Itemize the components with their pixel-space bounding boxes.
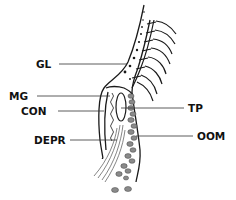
outer-outline (99, 5, 150, 182)
muscle-ladder (132, 20, 156, 88)
label-tp: TP (188, 103, 203, 114)
label-depr: DEPR (34, 135, 66, 146)
tarsal-plate (116, 93, 126, 121)
label-mg: MG (9, 91, 28, 102)
eyelid-diagram (0, 0, 236, 200)
label-oom: OOM (197, 131, 225, 142)
meibomian-gland (111, 93, 114, 141)
label-con: CON (21, 106, 46, 117)
orbicularis-bundles (112, 94, 138, 193)
leader-lines (37, 64, 193, 140)
label-gl: GL (36, 59, 51, 70)
